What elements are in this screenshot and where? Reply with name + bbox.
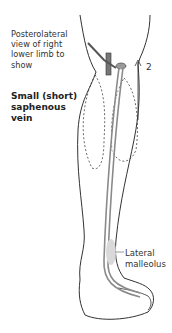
caption: Posterolateral view of right lower limb … (11, 29, 81, 70)
leg-outline (78, 15, 154, 319)
label-number: 2 (146, 62, 152, 72)
title: Small (short) saphenous vein (11, 91, 81, 124)
title-line: Small (short) (11, 91, 81, 102)
title-line: vein (11, 113, 81, 124)
lateral-malleolus-label: Lateral malleolus (125, 248, 166, 269)
caption-line: show (11, 60, 81, 70)
caption-line: lower limb to (11, 49, 81, 59)
label-line: malleolus (125, 259, 166, 270)
caption-line: Posterolateral (11, 29, 81, 39)
caption-line: view of right (11, 39, 81, 49)
gastrocnemius-lateral-outline (83, 75, 105, 169)
label-line: Lateral (125, 248, 166, 259)
lateral-malleolus (106, 239, 116, 265)
title-line: saphenous (11, 102, 81, 113)
